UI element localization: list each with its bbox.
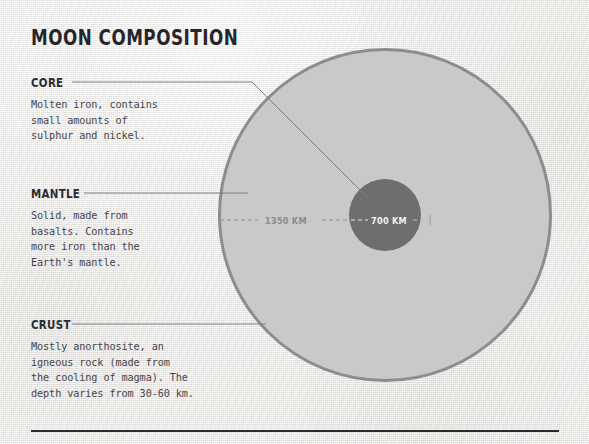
section-body-mantle: Solid, made from basalts. Contains more … [31,208,140,270]
measurement-label-core: 700 KM [371,215,407,226]
section-crust: CRUST Mostly anorthosite, an igneous roc… [31,317,194,401]
section-core: CORE Molten iron, contains small amounts… [31,75,158,144]
bottom-divider [31,430,559,432]
section-heading-mantle: MANTLE [31,186,120,201]
page-title: MOON COMPOSITION [31,26,238,50]
section-mantle: MANTLE Solid, made from basalts. Contain… [31,186,140,270]
section-body-core: Molten iron, contains small amounts of s… [31,97,158,144]
measurement-label-mantle: 1350 KM [265,215,307,226]
section-heading-core: CORE [31,75,135,90]
infographic-canvas: 1350 KM 700 KM MOON COMPOSITION CORE Mol… [0,0,589,444]
section-heading-crust: CRUST [31,317,165,332]
section-body-crust: Mostly anorthosite, an igneous rock (mad… [31,339,194,401]
